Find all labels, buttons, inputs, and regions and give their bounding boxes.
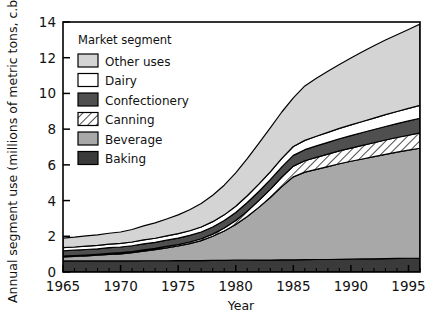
y-tick-label: 4	[47, 193, 56, 209]
x-tick-label: 1975	[161, 278, 195, 294]
y-axis-title: Annual segment use (millions of metric t…	[5, 0, 20, 303]
legend-label-dairy: Dairy	[105, 74, 137, 88]
legend-label-canning: Canning	[105, 113, 155, 127]
legend-title: Market segment	[78, 33, 172, 47]
y-tick-label: 0	[47, 264, 56, 280]
legend-swatch-dairy	[78, 74, 98, 87]
legend-swatch-other-uses	[78, 54, 98, 67]
legend-swatch-confectionery	[78, 93, 98, 106]
x-tick-label: 1990	[334, 278, 368, 294]
y-tick-label: 10	[39, 85, 56, 101]
y-tick-label: 12	[39, 50, 56, 66]
y-tick-label: 2	[47, 228, 56, 244]
x-axis-title: Year	[227, 298, 255, 313]
y-tick-label: 14	[39, 14, 56, 30]
stacked-area-chart: 1965197019751980198519901995 02468101214…	[0, 0, 441, 319]
legend-label-confectionery: Confectionery	[105, 94, 189, 108]
legend-swatch-beverage	[78, 132, 98, 145]
x-tick-label: 1970	[103, 278, 137, 294]
legend-swatch-canning	[78, 113, 98, 126]
x-tick-label: 1995	[391, 278, 425, 294]
chart-canvas: 1965197019751980198519901995 02468101214…	[0, 0, 441, 319]
y-tick-label: 6	[47, 157, 56, 173]
x-tick-label: 1965	[46, 278, 80, 294]
legend-label-baking: Baking	[105, 152, 146, 166]
legend-label-beverage: Beverage	[105, 133, 162, 147]
y-tick-label: 8	[47, 121, 56, 137]
legend-swatch-baking	[78, 152, 98, 165]
legend-label-other-uses: Other uses	[105, 55, 170, 69]
x-tick-label: 1980	[219, 278, 253, 294]
x-tick-label: 1985	[276, 278, 310, 294]
